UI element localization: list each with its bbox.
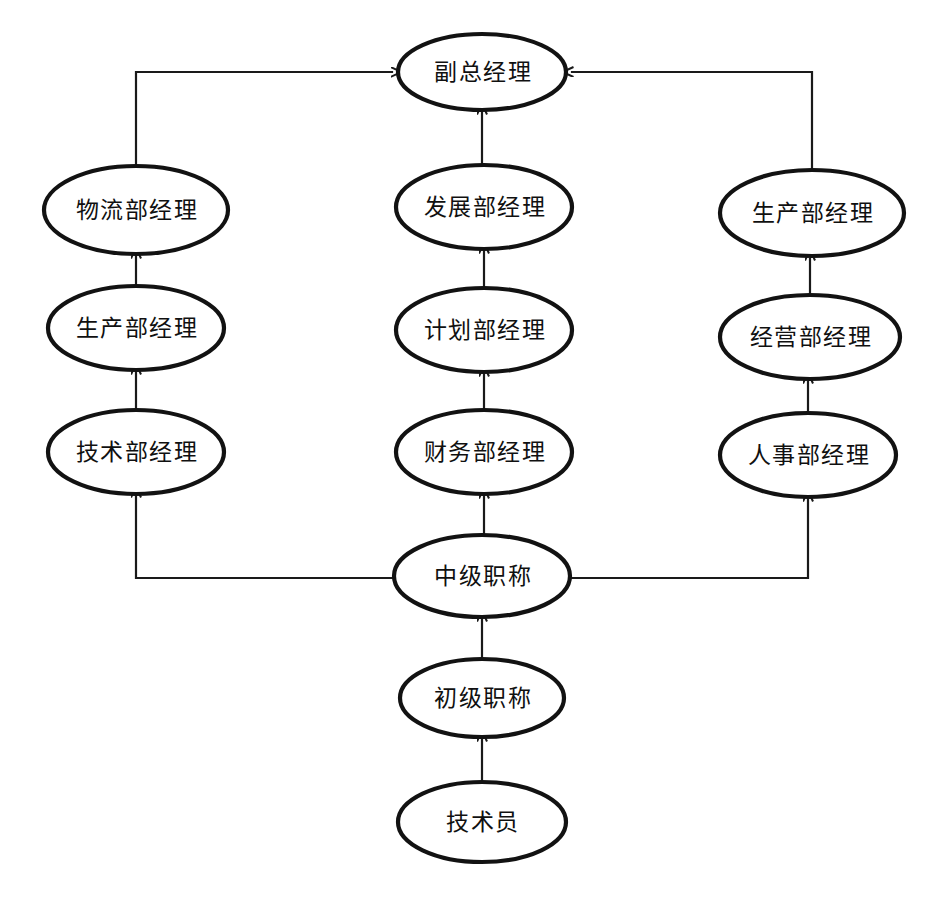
node-logistics-mgr[interactable]: 物流部经理 [44, 166, 228, 254]
node-junior-title[interactable]: 初级职称 [400, 659, 564, 737]
node-tech-mgr[interactable]: 技术部经理 [48, 410, 224, 494]
node-label: 生产部经理 [752, 200, 875, 226]
node-label: 副总经理 [434, 59, 532, 85]
edge-logistics-mgr-to-vice-gm [136, 72, 392, 166]
node-hr-mgr[interactable]: 人事部经理 [720, 413, 896, 497]
node-finance-mgr[interactable]: 财务部经理 [396, 410, 572, 494]
node-label: 财务部经理 [424, 439, 547, 465]
node-prod-mgr-right[interactable]: 生产部经理 [720, 170, 904, 256]
node-ops-mgr[interactable]: 经营部经理 [720, 295, 900, 379]
node-mid-title[interactable]: 中级职称 [394, 535, 570, 617]
node-label: 发展部经理 [424, 194, 547, 220]
node-plan-mgr[interactable]: 计划部经理 [396, 288, 572, 372]
node-label: 初级职称 [434, 685, 532, 711]
node-label: 人事部经理 [748, 442, 871, 468]
edge-mid-title-to-tech-mgr [136, 496, 394, 578]
node-label: 技术部经理 [76, 439, 199, 465]
node-prod-mgr-left[interactable]: 生产部经理 [48, 286, 224, 370]
node-technician[interactable]: 技术员 [398, 782, 566, 862]
career-path-diagram: 副总经理物流部经理发展部经理生产部经理生产部经理计划部经理经营部经理技术部经理财… [0, 0, 939, 916]
node-label: 中级职称 [434, 563, 532, 589]
node-vice-gm[interactable]: 副总经理 [398, 34, 566, 110]
node-label: 计划部经理 [424, 317, 547, 343]
node-dev-mgr[interactable]: 发展部经理 [396, 165, 572, 249]
diagram-canvas: 副总经理物流部经理发展部经理生产部经理生产部经理计划部经理经营部经理技术部经理财… [0, 0, 939, 916]
node-label: 经营部经理 [750, 324, 873, 350]
node-label: 物流部经理 [76, 197, 199, 223]
edge-mid-title-to-hr-mgr [570, 500, 808, 578]
node-layer: 副总经理物流部经理发展部经理生产部经理生产部经理计划部经理经营部经理技术部经理财… [44, 34, 904, 862]
node-label: 生产部经理 [76, 315, 199, 341]
node-label: 技术员 [446, 809, 520, 835]
edge-prod-mgr-right-to-vice-gm [572, 72, 812, 170]
